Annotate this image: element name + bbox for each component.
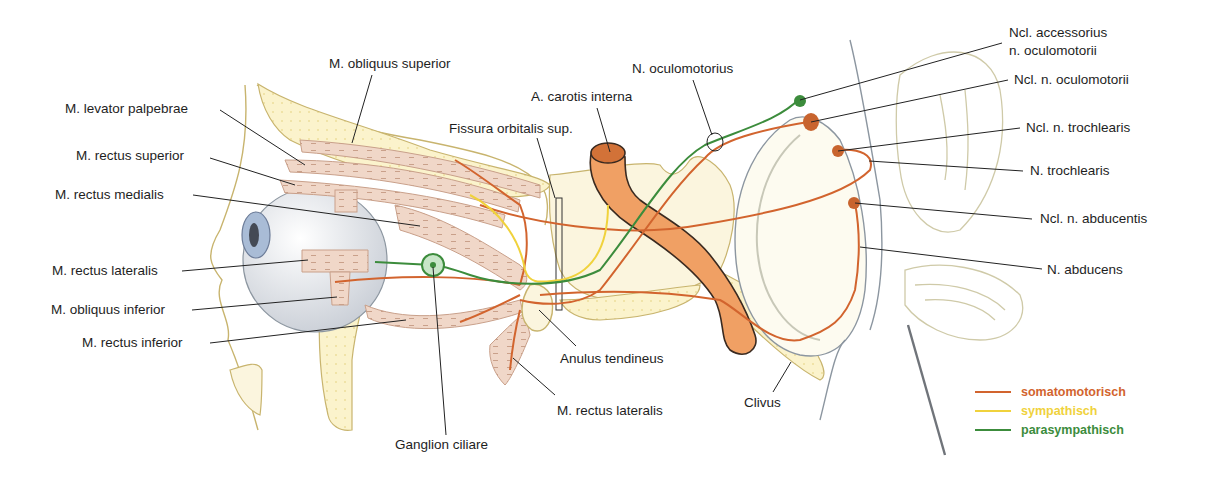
legend: somatomotorisch sympathisch parasympathi… xyxy=(975,382,1126,439)
ncl-accessorius-oculomotorii xyxy=(794,95,806,107)
label-ncl-oculomotorii: Ncl. n. oculomotorii xyxy=(1014,72,1129,88)
brainstem-outline xyxy=(735,117,866,356)
legend-swatch-somatomotorisch xyxy=(975,391,1011,393)
extraocular-muscles xyxy=(280,140,540,385)
legend-swatch-sympathisch xyxy=(975,410,1011,412)
muscle-rectus-lateralis-eye xyxy=(302,250,368,272)
brainstem-line-3 xyxy=(908,325,945,455)
muscle-rectus-lateralis-orbit xyxy=(490,312,530,385)
label-obliquus-superior: M. obliquus superior xyxy=(329,56,451,72)
legend-label: somatomotorisch xyxy=(1021,385,1126,399)
legend-item-parasympathisch: parasympathisch xyxy=(975,420,1126,439)
legend-label: sympathisch xyxy=(1021,404,1097,418)
label-ganglion-ciliare: Ganglion ciliare xyxy=(395,437,488,453)
muscle-rectus-superior-insertion xyxy=(335,190,357,212)
cerebellum xyxy=(896,52,1022,340)
label-ncl-accessorius-1: Ncl. accessorius xyxy=(1009,25,1107,41)
label-rectus-medialis: M. rectus medialis xyxy=(55,187,164,203)
label-ncl-trochlearis: Ncl. n. trochlearis xyxy=(1026,120,1130,136)
label-rectus-lateralis-left: M. rectus lateralis xyxy=(52,263,158,279)
label-oculomotorius: N. oculomotorius xyxy=(632,61,733,77)
label-ncl-accessorius-2: n. oculomotorii xyxy=(1009,43,1097,59)
label-anulus-tendineus: Anulus tendineus xyxy=(560,351,664,367)
muscle-obliquus-inferior xyxy=(330,272,350,305)
label-rectus-lateralis-bottom: M. rectus lateralis xyxy=(557,403,663,419)
legend-item-somatomotorisch: somatomotorisch xyxy=(975,382,1126,401)
label-n-abducens: N. abducens xyxy=(1047,262,1123,278)
anulus-tendineus xyxy=(522,284,553,331)
label-obliquus-inferior: M. obliquus inferior xyxy=(51,302,165,318)
diagram: M. obliquus superior M. levator palpebra… xyxy=(0,0,1215,487)
label-fissura-orbitalis: Fissura orbitalis sup. xyxy=(449,121,573,137)
legend-label: parasympathisch xyxy=(1021,423,1124,437)
label-carotis-interna: A. carotis interna xyxy=(531,89,632,105)
label-rectus-superior: M. rectus superior xyxy=(76,148,184,164)
label-rectus-inferior: M. rectus inferior xyxy=(82,335,183,351)
label-ncl-abducentis: Ncl. n. abducentis xyxy=(1040,211,1147,227)
label-n-trochlearis: N. trochlearis xyxy=(1030,163,1110,179)
pupil xyxy=(249,223,259,247)
jaw-outline xyxy=(230,364,262,415)
legend-swatch-parasympathisch xyxy=(975,429,1011,431)
label-clivus: Clivus xyxy=(744,395,781,411)
legend-item-sympathisch: sympathisch xyxy=(975,401,1126,420)
label-levator-palpebrae: M. levator palpebrae xyxy=(65,101,188,117)
